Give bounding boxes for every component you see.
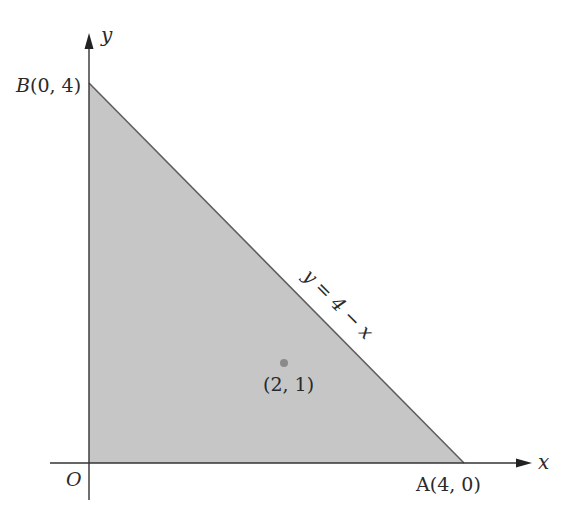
x-axis-arrow-icon bbox=[516, 459, 532, 468]
x-axis-label: x bbox=[538, 450, 549, 474]
y-axis-arrow-icon bbox=[85, 33, 94, 49]
origin-label: O bbox=[66, 468, 82, 490]
interior-point-marker bbox=[280, 359, 288, 367]
point-b-label: B(0, 4) bbox=[15, 74, 81, 96]
point-a-label: A(4, 0) bbox=[415, 473, 481, 495]
point-b-coords: (0, 4) bbox=[30, 74, 81, 96]
y-axis-label: y bbox=[100, 23, 113, 47]
coordinate-diagram: y x O B(0, 4) A(4, 0) (2, 1) y = 4 − x bbox=[0, 0, 570, 518]
interior-point-label: (2, 1) bbox=[263, 373, 314, 395]
